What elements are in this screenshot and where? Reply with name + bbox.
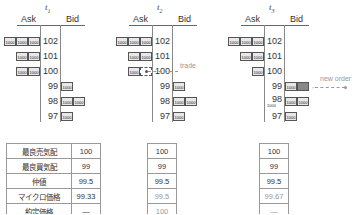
price-level: 99 (38, 81, 58, 91)
row-label: マイクロ価格 (7, 189, 72, 204)
ask-order: 1000 (28, 52, 40, 61)
price-table-t3: 100 99 99.5 99.67 — (259, 143, 289, 214)
price-level: 98 (150, 96, 170, 106)
bid-order: 1000 (185, 97, 197, 106)
ask-order: 1000 (252, 37, 264, 46)
bid-order: 1000 (285, 82, 297, 91)
ask-order: 1000 (28, 37, 40, 46)
divider (172, 25, 173, 122)
bid-order: 1000 (173, 112, 185, 121)
bid-header: Bid (66, 14, 79, 24)
trade-arrow (148, 71, 178, 73)
cell-value: 100 (260, 144, 289, 159)
new-bid-order (297, 82, 309, 91)
cell-value: 100 (148, 144, 177, 159)
ask-order: 1000 (128, 37, 140, 46)
bid-order: 1000 (297, 97, 309, 106)
bid-order: 1000 (173, 97, 185, 106)
trade-annotation: trade (180, 62, 196, 69)
ask-order: 1000 (140, 37, 152, 46)
ask-order: 1000 (252, 67, 264, 76)
price-level: 99 (150, 81, 170, 91)
divider (60, 25, 61, 122)
price-level: 97 (150, 111, 170, 121)
price-table-t2: 100 99 99.5 99.5 100 (147, 143, 177, 214)
price-level: 102 (150, 36, 170, 46)
price-level: 97 (262, 111, 282, 121)
bid-order: 1000 (61, 112, 73, 121)
cell-value: 99 (148, 159, 177, 174)
bid-order: 1000 (61, 82, 73, 91)
price-level: 102 (262, 36, 282, 46)
cell-value: 99.5 (72, 174, 101, 189)
ask-order: 1000 (128, 52, 140, 61)
ask-order: 1000 (28, 67, 40, 76)
small-qty-label: 1000 (267, 103, 276, 108)
new-order-dot-icon (344, 86, 347, 89)
divider (129, 25, 197, 26)
panel-title: t2 (157, 2, 163, 14)
cell-value: — (260, 204, 289, 215)
cell-value: 99 (72, 159, 101, 174)
ask-order: 1000 (140, 52, 152, 61)
ask-order: 1000 (4, 37, 16, 46)
price-level: 98 (38, 96, 58, 106)
panel-title: t1 (45, 2, 51, 14)
cell-value: — (72, 204, 101, 215)
cell-value: 99 (260, 159, 289, 174)
bid-order: 1000 (285, 112, 297, 121)
ask-order: 1000 (16, 52, 28, 61)
ask-order: 1000 (116, 37, 128, 46)
bid-order: 1000 (173, 82, 185, 91)
divider (241, 25, 309, 26)
cell-value: 100 (148, 204, 177, 215)
cell-value: 99.5 (148, 189, 177, 204)
ask-order: 1000 (128, 67, 140, 76)
price-level: 102 (38, 36, 58, 46)
bid-header: Bid (178, 14, 191, 24)
cell-value: 99.67 (260, 189, 289, 204)
price-level: 99 (262, 81, 282, 91)
price-level: 97 (38, 111, 58, 121)
price-level: 100 (38, 66, 58, 76)
divider (17, 25, 85, 26)
ask-order: 1000 (240, 37, 252, 46)
panel-title: t3 (269, 2, 275, 14)
ask-order: 1000 (16, 67, 28, 76)
cell-value: 99.5 (148, 174, 177, 189)
cell-value: 100 (72, 144, 101, 159)
price-table-t1: 最良売気配100 最良買気配99 仲値99.5 マイクロ価格99.33 約定価格… (6, 143, 101, 214)
price-level: 101 (150, 51, 170, 61)
ask-header: Ask (245, 14, 260, 24)
cell-value: 99.33 (72, 189, 101, 204)
row-label: 最良買気配 (7, 159, 72, 174)
divider (284, 25, 285, 122)
price-level: 101 (38, 51, 58, 61)
ask-order: 1000 (16, 37, 28, 46)
new-order-arrow (315, 87, 345, 89)
price-level: 101 (262, 51, 282, 61)
ask-order: 1000 (228, 37, 240, 46)
bid-order: 1000 (61, 97, 73, 106)
bid-order: 1000 (285, 97, 297, 106)
price-level: 100 (262, 66, 282, 76)
bid-order: 1000 (73, 97, 85, 106)
ask-header: Ask (133, 14, 148, 24)
cell-value: 99.5 (260, 174, 289, 189)
row-label: 約定価格 (7, 204, 72, 215)
ask-header: Ask (21, 14, 36, 24)
row-label: 最良売気配 (7, 144, 72, 159)
bid-header: Bid (290, 14, 303, 24)
new-order-annotation: new order (320, 75, 351, 82)
ask-order: 1000 (240, 52, 252, 61)
row-label: 仲値 (7, 174, 72, 189)
ask-order: 1000 (252, 52, 264, 61)
